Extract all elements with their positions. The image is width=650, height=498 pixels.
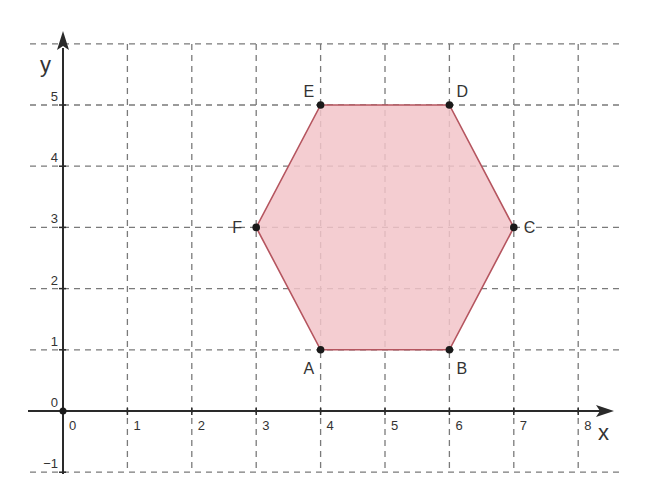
x-tick-label: 1 xyxy=(133,418,140,433)
y-axis-arrow-icon xyxy=(57,31,69,50)
y-tick-label: 5 xyxy=(51,89,58,104)
y-tick-label: 4 xyxy=(51,150,58,165)
x-tick-label: 7 xyxy=(520,418,527,433)
vertex-point-d xyxy=(446,101,454,109)
vertex-point-c xyxy=(510,224,518,232)
vertex-label-b: B xyxy=(456,360,467,377)
y-tick-label: 1 xyxy=(51,334,58,349)
vertex-label-f: F xyxy=(232,219,242,236)
x-tick-label: 4 xyxy=(327,418,334,433)
vertex-label-a: A xyxy=(304,360,315,377)
y-tick-label: −1 xyxy=(43,456,58,471)
x-tick-label: 8 xyxy=(584,418,591,433)
x-tick-label: 2 xyxy=(198,418,205,433)
y-axis-label: y xyxy=(40,52,51,77)
x-tick-label: 5 xyxy=(391,418,398,433)
coordinate-plane: xy 012345678−1012345 ABCDEF xyxy=(0,0,650,498)
vertex-point-b xyxy=(446,346,454,354)
vertex-point-a xyxy=(317,346,325,354)
hexagon-shape xyxy=(256,105,514,350)
origin-point xyxy=(60,408,67,415)
y-tick-label: 3 xyxy=(51,211,58,226)
vertex-label-c: C xyxy=(524,219,536,236)
coordinate-plane-figure: xy 012345678−1012345 ABCDEF xyxy=(0,0,650,498)
x-tick-label: 3 xyxy=(262,418,269,433)
hexagon-polygon xyxy=(256,105,514,350)
y-tick-label: 0 xyxy=(51,395,58,410)
y-tick-label: 2 xyxy=(51,273,58,288)
x-tick-label: 6 xyxy=(455,418,462,433)
vertex-point-e xyxy=(317,101,325,109)
vertex-label-e: E xyxy=(304,83,315,100)
vertex-point-f xyxy=(252,224,260,232)
vertex-label-d: D xyxy=(456,83,468,100)
x-tick-label: 0 xyxy=(69,418,76,433)
x-axis-label: x xyxy=(598,420,609,445)
